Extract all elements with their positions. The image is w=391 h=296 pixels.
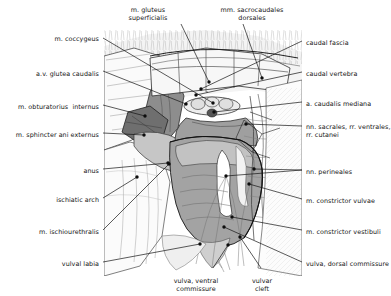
label-vulval-labia: vulval labia (0, 260, 99, 268)
label-m-ischiourethralis: m. ischiourethralis (0, 228, 99, 236)
a-caudalis-mediana-lumen (207, 109, 217, 117)
leader-vulval-labia-endpoint-dot (198, 242, 201, 245)
leader-mm-sacrocaudales-dorsales-endpoint-dot (260, 76, 263, 79)
label-nn-sacrales: nn. sacrales, rr. ventrales, rr. cutanei (306, 123, 391, 139)
label-m-constrictor-vulvae: m. constrictor vulvae (306, 197, 391, 205)
leader-nn-perineales-endpoint-dot (224, 174, 227, 177)
label-caudal-fascia: caudal fascia (306, 39, 391, 47)
vertebra-process-left (191, 99, 205, 110)
leader-m-gluteus-superficialis-endpoint-dot (207, 80, 210, 83)
leader-caudal-vertebra-endpoint-dot (194, 93, 197, 96)
caudal-vertebra-group (184, 97, 240, 117)
label-vulvar-cleft: vulvar cleft (202, 277, 322, 293)
label-ischiatic-arch: ischiatic arch (0, 196, 99, 204)
leader-m-obturatorius-internus-endpoint-dot (143, 114, 146, 117)
label-anus: anus (0, 167, 99, 175)
label-m-coccygeus: m. coccygeus (0, 35, 99, 43)
label-nn-perineales: nn. perineales (306, 168, 391, 176)
leader-m-coccygeus-endpoint-dot (211, 101, 214, 104)
leader-vulva-ventral-commissure-endpoint-dot (226, 243, 229, 246)
leader-m-sphincter-ani-externus-endpoint-dot (142, 133, 145, 136)
anatomical-figure: m. coccygeusa.v. glutea caudalism. obtur… (0, 0, 391, 296)
leader-m-ischiourethralis-endpoint-dot (167, 162, 170, 165)
leader-nn-perineales-b-endpoint-dot (252, 167, 255, 170)
right-thigh-hatch (266, 88, 302, 276)
label-vulva-dorsal-commissure: vulva, dorsal commissure (306, 260, 391, 268)
leader-caudal-fascia-endpoint-dot (199, 87, 202, 90)
label-caudal-vertebra: caudal vertebra (306, 70, 391, 78)
label-mm-sacrocaudales-dorsales: mm. sacrocaudales dorsales (192, 6, 312, 22)
label-av-glutea-caudalis: a.v. glutea caudalis (0, 70, 99, 78)
leader-ischiatic-arch-endpoint-dot (135, 175, 138, 178)
leader-av-glutea-caudalis-endpoint-dot (184, 102, 187, 105)
leader-m-constrictor-vulvae-endpoint-dot (247, 182, 250, 185)
vertebra-process-right (219, 99, 233, 110)
label-m-sphincter-ani-externus: m. sphincter ani externus (0, 131, 99, 139)
label-m-constrictor-vestibuli: m. constrictor vestibuli (306, 228, 391, 236)
leader-vulvar-cleft-endpoint-dot (238, 235, 241, 238)
leader-vulva-dorsal-commissure-endpoint-dot (222, 225, 225, 228)
label-m-obturatorius-internus: m. obturatorius internus (0, 103, 99, 111)
leader-vulvar-cleft (240, 237, 261, 268)
illustration-body (104, 30, 302, 276)
leader-nn-sacrales-endpoint-dot (244, 122, 247, 125)
leader-m-constrictor-vestibuli-endpoint-dot (230, 215, 233, 218)
label-a-caudalis-mediana: a. caudalis mediana (306, 100, 391, 108)
label-m-gluteus-superficialis: m. gluteus superficialis (88, 6, 208, 22)
leader-a-caudalis-mediana-endpoint-dot (212, 110, 215, 113)
